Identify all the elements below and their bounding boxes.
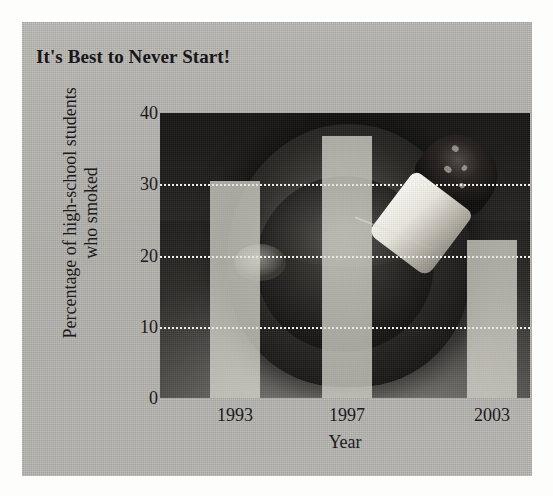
bars-group bbox=[160, 113, 530, 398]
x-axis-tick-label: 1993 bbox=[190, 405, 280, 426]
y-axis-title-line-2: who smoked bbox=[81, 58, 102, 368]
y-axis-tick-label: 20 bbox=[110, 247, 158, 265]
y-axis-title-line-1: Percentage of high-school students bbox=[60, 87, 80, 338]
y-axis-tick-labels: 010203040 bbox=[106, 22, 158, 476]
x-axis-tick-label: 1997 bbox=[302, 405, 392, 426]
bar-1993 bbox=[210, 181, 260, 398]
x-axis-tick-label: 2003 bbox=[447, 405, 537, 426]
x-axis-tick-labels: 199319972003 bbox=[160, 405, 530, 431]
bar-1997 bbox=[322, 136, 372, 398]
y-axis-tick-label: 10 bbox=[110, 318, 158, 336]
y-axis-tick-label: 40 bbox=[110, 104, 158, 122]
bar-2003 bbox=[467, 240, 517, 398]
y-axis-title: Percentage of high-school students who s… bbox=[60, 58, 102, 368]
x-axis-title: Year bbox=[160, 432, 530, 453]
plot-area bbox=[160, 113, 530, 398]
y-axis-tick-label: 0 bbox=[110, 389, 158, 407]
y-axis-tick-label: 30 bbox=[110, 175, 158, 193]
figure-panel: It's Best to Never Start! Percentage of … bbox=[22, 22, 532, 476]
